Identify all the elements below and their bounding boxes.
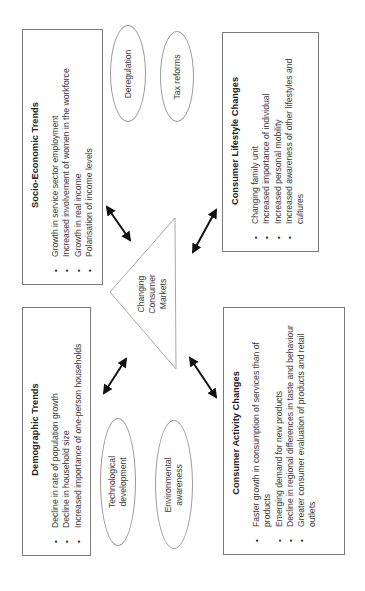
environmental-awareness-ellipse: Environmental awareness [155,420,193,549]
socio-economic-box: Socio-Economic Trends Growth in service … [22,29,103,285]
item-list: Growth in service sector employment Incr… [50,36,95,274]
center-label-line: Consumer [147,274,158,314]
list-item: Growth in service sector employment [50,36,61,274]
list-item: Increased importance of one-person house… [73,314,84,545]
tax-reforms-ellipse: Tax reforms [160,31,194,122]
ellipse-label-line: Technological [107,456,118,508]
list-item: Increased involvement of women in the wo… [61,36,72,274]
ellipse-label: Deregulation [123,49,134,98]
list-item: Increased awareness of other lifestyles … [284,41,307,241]
box-title: Socio-Economic Trends [30,36,41,274]
list-item: Growth in real income [73,36,84,274]
item-list: Faster growth in consumption of services… [251,322,319,544]
list-item: Increased personal mobility [273,41,284,241]
item-list: Changing family unit Increased importanc… [250,41,306,241]
box-title: Consumer Lifestyle Changes [230,41,241,241]
box-title: Consumer Activity Changes [231,322,242,544]
list-item: Polarisation of income levels [84,36,95,274]
list-item: Increased importance of individual [261,41,272,241]
list-item: Decline in household size [61,314,72,545]
list-item: Faster growth in consumption of services… [251,322,274,544]
list-item: Decline in rate of population growth [50,314,61,545]
lifestyle-box: Consumer Lifestyle Changes Changing fami… [222,32,319,252]
ellipse-label: Technological development [107,456,129,508]
list-item: Greater consumer evaluation of products … [296,322,319,544]
ellipse-label-line: awareness [174,457,185,512]
ellipse-label: Environmental awareness [163,457,185,512]
ellipse-label-line: Deregulation [123,49,134,98]
list-item: Changing family unit [250,41,261,241]
arrow-lifestyle [193,210,216,252]
arrow-activity [190,358,216,397]
ellipse-label-line: development [118,456,129,508]
activity-box: Consumer Activity Changes Faster growth … [223,307,345,555]
box-title: Demographic Trends [30,314,41,545]
ellipse-label-line: Environmental [163,457,174,512]
demographic-box: Demographic Trends Decline in rate of po… [22,307,91,556]
center-label-line: Changing [136,274,147,314]
center-label: Changing Consumer Markets [136,274,169,314]
list-item: Emerging demand for new products [274,322,285,544]
center-label-line: Markets [158,274,169,314]
arrow-demographic [104,359,126,393]
deregulation-ellipse: Deregulation [110,25,146,122]
technological-development-ellipse: Technological development [100,418,136,546]
ellipse-label-line: Tax reforms [172,54,183,99]
list-item: Decline in regional differences in taste… [285,322,296,544]
arrow-socio-economic [107,207,130,240]
ellipse-label: Tax reforms [172,54,183,99]
item-list: Decline in rate of population growth Dec… [50,314,84,545]
